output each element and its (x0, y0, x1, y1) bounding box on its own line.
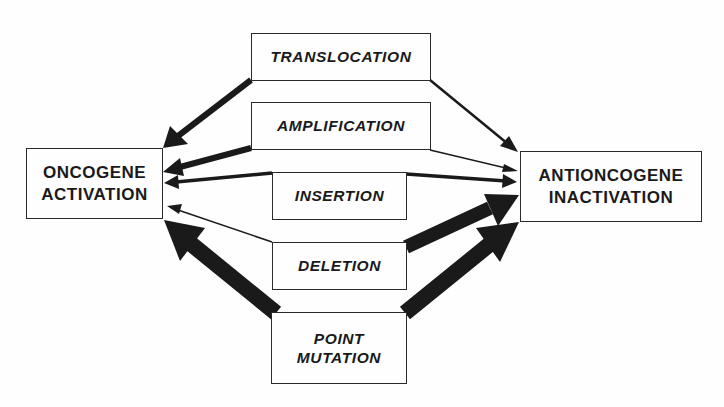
oncogenesis-mechanism-diagram: ONCOGENE ACTIVATION ANTIONCOGENE INACTIV… (0, 0, 724, 407)
arrow-insertion-to-antioncogene (406, 174, 517, 188)
oncogene-activation-line2: ACTIVATION (41, 184, 147, 205)
antioncogene-inactivation-line1: ANTIONCOGENE (539, 165, 684, 186)
arrow-translocation-to-antioncogene (430, 80, 518, 152)
arrow-amplification-to-antioncogene (430, 150, 518, 172)
translocation-label: TRANSLOCATION (271, 47, 412, 66)
insertion-box: INSERTION (272, 172, 407, 220)
deletion-label: DELETION (298, 256, 381, 275)
arrow-amplification-to-oncogene (163, 148, 251, 176)
amplification-box: AMPLIFICATION (251, 102, 431, 150)
point-mutation-box: POINT MUTATION (271, 312, 407, 384)
point-mutation-line2: MUTATION (297, 348, 381, 367)
antioncogene-inactivation-box: ANTIONCOGENE INACTIVATION (520, 151, 702, 222)
translocation-box: TRANSLOCATION (251, 33, 431, 81)
amplification-label: AMPLIFICATION (277, 116, 405, 135)
arrow-insertion-to-oncogene (164, 173, 272, 189)
oncogene-activation-line1: ONCOGENE (41, 162, 147, 183)
deletion-box: DELETION (272, 242, 407, 290)
oncogene-activation-box: ONCOGENE ACTIVATION (26, 148, 163, 219)
point-mutation-line1: POINT (297, 329, 381, 348)
arrow-point-mutation-to-oncogene (164, 220, 276, 313)
antioncogene-inactivation-line2: INACTIVATION (539, 187, 684, 208)
insertion-label: INSERTION (295, 186, 385, 205)
arrow-translocation-to-oncogene (163, 80, 251, 148)
